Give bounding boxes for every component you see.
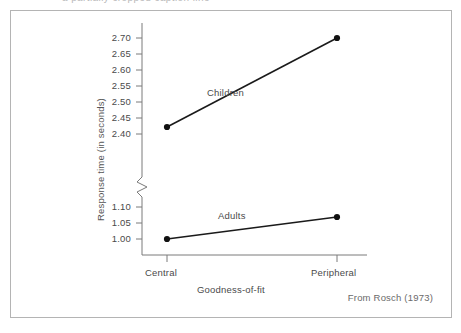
caption-sliver-text: a partially cropped caption line (62, 0, 210, 3)
series-line-children (167, 38, 337, 127)
series-label-adults: Adults (218, 210, 246, 221)
figure-frame: Response time (in seconds) 2.70 2.65 2.6… (10, 10, 452, 318)
y-tick-label-245: 2.45 (97, 112, 131, 123)
x-axis-title: Goodness-of-fit (197, 284, 265, 295)
x-tick-label-central: Central (145, 267, 177, 278)
cropped-caption-sliver: a partially cropped caption line (0, 0, 461, 8)
data-point-children-peripheral (334, 35, 340, 41)
source-attribution: From Rosch (1973) (348, 292, 433, 303)
y-tick-label-265: 2.65 (97, 48, 131, 59)
data-point-adults-peripheral (334, 214, 340, 220)
y-tick-label-100: 1.00 (97, 233, 131, 244)
y-tick-label-110: 1.10 (97, 201, 131, 212)
y-tick-label-240: 2.40 (97, 128, 131, 139)
y-tick-label-250: 2.50 (97, 96, 131, 107)
series-label-children: Children (207, 87, 244, 98)
data-point-children-central (164, 124, 170, 130)
x-tick-label-peripheral: Peripheral (311, 267, 356, 278)
line-chart-canvas (11, 11, 453, 319)
data-point-adults-central (164, 236, 170, 242)
y-tick-label-270: 2.70 (97, 32, 131, 43)
y-tick-label-255: 2.55 (97, 80, 131, 91)
axis-break-zigzag-icon (137, 177, 147, 197)
y-tick-label-260: 2.60 (97, 64, 131, 75)
y-tick-label-105: 1.05 (97, 217, 131, 228)
